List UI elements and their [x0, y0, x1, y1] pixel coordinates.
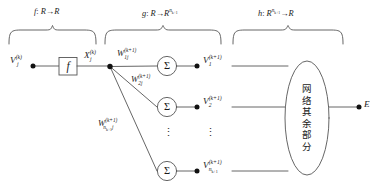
activation-output-sub: j	[90, 56, 92, 62]
brace-label-h-colon: :	[262, 9, 264, 18]
output-n-sup: (k+1)	[209, 159, 222, 165]
input-node-label: V(k)j	[10, 55, 19, 68]
output-2-sup: (k+1)	[209, 95, 222, 101]
input-node-sub: j	[17, 61, 19, 67]
rest-of-network-char-1: 络	[297, 95, 317, 107]
output-1-sup: (k+1)	[209, 54, 222, 60]
weight-2-sub: 2j	[138, 80, 142, 86]
brace-label-g-colon: :	[146, 9, 148, 18]
activation-function-label: f	[66, 61, 69, 73]
output-n-sub-sub: k+1	[211, 169, 217, 174]
output-2-sub: 2	[209, 102, 212, 108]
brace-label-f-body: R→R	[41, 7, 60, 16]
sum-symbol-2: Σ	[164, 102, 170, 113]
error-label: E	[364, 99, 370, 109]
weight-n-sup: (k+1)	[105, 117, 117, 123]
weight-label-n: W(k+1)nk+1j	[98, 118, 114, 132]
diagram-graphics	[0, 0, 381, 188]
dot-split	[107, 64, 112, 69]
output-node-label-n: V(k+1)nk+1	[203, 160, 218, 174]
vdots-glyph-2: ⋮	[205, 131, 214, 134]
edge-weight-1	[110, 66, 157, 67]
sum-node-1: Σ	[157, 56, 176, 75]
brace-g-shape	[105, 26, 221, 45]
rest-of-network-label: 网 络 其 余 部 分	[297, 83, 317, 153]
sum-node-n: Σ	[157, 161, 176, 180]
brace-label-g-sup-sub: k+1	[172, 11, 178, 15]
vertical-dots-sum-column: ⋮	[163, 131, 172, 134]
output-node-label-2: V(k+1)2	[203, 96, 211, 109]
dot-v1	[195, 64, 200, 69]
rest-of-network-char-2: 其	[297, 106, 317, 118]
dot-input	[31, 64, 36, 69]
brace-h-shape	[233, 26, 343, 45]
rest-of-network-char-0: 网	[297, 83, 317, 95]
output-node-label-1: V(k+1)1	[203, 55, 211, 68]
error-node-label: E	[364, 100, 370, 109]
brace-label-h: h: Rnk+1→R	[258, 8, 294, 18]
weight-1-sup: (k+1)	[124, 47, 136, 53]
weight-label-2: W(k+1)2j	[131, 74, 143, 86]
brace-label-g: g: R→Rnk+1	[142, 8, 178, 18]
activation-output-sup: (k)	[90, 49, 96, 55]
weight-2-sup: (k+1)	[138, 73, 150, 79]
brace-label-f-colon: :	[36, 7, 38, 16]
brace-label-f: f: R→R	[34, 8, 59, 16]
weight-label-1: W(k+1)1j	[117, 48, 129, 60]
rest-of-network-char-4: 部	[297, 129, 317, 141]
sum-symbol-n: Σ	[164, 166, 170, 177]
brace-f-shape	[9, 26, 96, 45]
dot-v2	[195, 105, 200, 110]
vertical-dots-output-column: ⋮	[205, 131, 214, 134]
diagram-canvas: f: R→R g: R→Rnk+1 h: Rnk+1→R V(k)j f X(k…	[0, 0, 381, 188]
brace-label-h-body-post: →R	[280, 9, 294, 18]
brace-label-g-body: R→R	[151, 9, 170, 18]
input-node-sup: (k)	[16, 54, 22, 60]
rest-of-network-char-3: 余	[297, 118, 317, 130]
output-1-sub: 1	[209, 61, 212, 67]
activation-output-label: X(k)j	[84, 50, 92, 63]
vdots-glyph-1: ⋮	[163, 131, 172, 134]
dot-error	[357, 105, 362, 110]
activation-function-box: f	[59, 58, 77, 76]
sum-symbol-1: Σ	[164, 61, 170, 72]
dot-vn	[195, 169, 200, 174]
rest-of-network-char-5: 分	[297, 141, 317, 153]
weight-1-sub: 1j	[124, 54, 128, 60]
sum-node-2: Σ	[157, 97, 176, 116]
weight-n-sub-tail: j	[112, 124, 113, 130]
